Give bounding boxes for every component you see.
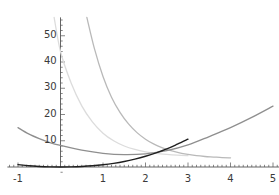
x-tick-label: -1 <box>7 173 29 184</box>
x-tick-label: 2 <box>135 173 157 184</box>
series-line-light-decay-curve <box>54 17 188 155</box>
y-tick-label: 30 <box>35 81 57 92</box>
y-tick-label: 50 <box>35 29 57 40</box>
x-tick-label: 3 <box>177 173 199 184</box>
y-tick-label: 10 <box>35 134 57 145</box>
y-tick-label: 40 <box>35 55 57 66</box>
x-tick-label: 1 <box>92 173 114 184</box>
x-tick-label: 4 <box>220 173 242 184</box>
x-tick-label: 5 <box>262 173 279 184</box>
y-tick-label: 20 <box>35 108 57 119</box>
chart-container: 1020304050-112345 <box>0 0 279 195</box>
